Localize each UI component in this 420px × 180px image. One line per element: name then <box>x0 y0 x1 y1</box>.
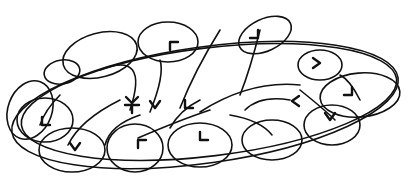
loop-bottom-center <box>168 123 232 167</box>
chev-bottom-left-arrowhead-icon <box>70 143 80 150</box>
arrow-10-curve-arrow <box>340 75 360 100</box>
chev-mid-right-arrowhead-icon <box>292 96 299 106</box>
chev-top-right-arrowhead-icon <box>250 30 258 38</box>
chev-left-center-arrowhead-icon <box>125 97 139 113</box>
arrow-14-curve-arrow <box>105 115 140 145</box>
arrow-3-curve-arrow <box>180 30 220 108</box>
arrow-5-curve-arrow <box>240 30 260 95</box>
arrow-4-curve-arrow <box>200 84 300 112</box>
loop-right-upper <box>298 50 342 80</box>
chev-right-upper-arrowhead-icon <box>313 58 320 68</box>
loop-bottom-right-mid <box>242 120 302 160</box>
chev-right-arrowhead-icon <box>344 87 352 95</box>
loop-top-left-small <box>42 57 82 87</box>
sketch-svg <box>0 0 420 180</box>
loop-top-center <box>138 22 198 62</box>
chev-bottom-left-center-arrowhead-icon <box>138 140 146 148</box>
loop-left-outer <box>0 74 61 145</box>
arrow-11-curve-arrow <box>68 100 120 145</box>
loop-right <box>318 70 402 121</box>
loop-top-left <box>58 24 143 86</box>
loop-left <box>17 98 73 142</box>
arrow-6-curve-arrow <box>245 99 290 110</box>
loop-bottom-left <box>39 128 105 172</box>
loop-diagram <box>0 0 420 180</box>
loop-top-right <box>233 9 297 62</box>
chev-top-center-arrowhead-icon <box>170 42 178 50</box>
loop-group <box>0 9 402 172</box>
outer-ellipse <box>4 20 406 180</box>
chev-bottom-center-arrowhead-icon <box>200 132 208 140</box>
